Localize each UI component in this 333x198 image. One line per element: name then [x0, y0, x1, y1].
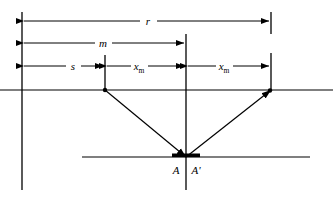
- incident-ray: [105, 90, 186, 157]
- dimension-s: s: [24, 60, 103, 72]
- dimension-xm-left: xm: [107, 60, 184, 75]
- dimension-xm-left-subscript: m: [139, 66, 145, 75]
- dimension-xm-right-subscript: m: [224, 66, 230, 75]
- horizontal-lines-group: [0, 90, 333, 157]
- diagram-canvas: r m s xm xm: [0, 0, 333, 198]
- dimension-m: m: [24, 37, 184, 49]
- point-label-a-prime: A': [190, 164, 201, 176]
- rays-group: [103, 88, 272, 157]
- incident-ray-source-dot: [103, 88, 107, 92]
- dimension-r-label: r: [146, 15, 151, 27]
- reflected-ray: [186, 90, 271, 157]
- aperture-bar: [172, 154, 200, 158]
- dimension-xm-left-label: xm: [133, 60, 145, 75]
- dimension-s-label: s: [71, 60, 75, 72]
- point-label-a: A: [172, 164, 180, 176]
- vertical-lines-group: [22, 12, 271, 190]
- dimension-r: r: [24, 15, 269, 27]
- ray-diagram-figure: r m s xm xm: [0, 0, 333, 198]
- dimension-xm-right-label: xm: [218, 60, 230, 75]
- reflected-ray-end-dot: [268, 88, 272, 92]
- dimension-m-label: m: [99, 37, 107, 49]
- aperture-bar-group: [172, 154, 200, 158]
- dimension-xm-right: xm: [188, 60, 269, 75]
